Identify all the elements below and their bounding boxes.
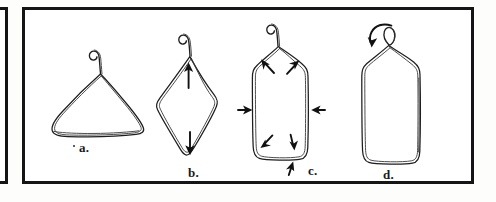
- stray-ink-dot: [73, 145, 75, 147]
- figure-label-d: d.: [383, 167, 394, 183]
- left-partial-panel: [0, 7, 8, 184]
- main-figure-panel: [22, 7, 474, 184]
- figure-label-c: c.: [308, 163, 318, 179]
- figure-label-b: b.: [188, 165, 199, 181]
- figure-label-a: a.: [79, 140, 89, 156]
- scanned-page-background: .ink { fill:none; stroke:#1e1e1e; stroke…: [0, 0, 496, 202]
